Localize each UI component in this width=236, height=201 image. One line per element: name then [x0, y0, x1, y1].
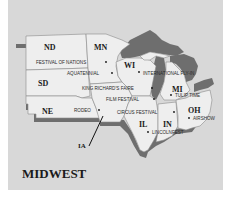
event-marker-airshow [188, 117, 190, 119]
midwest-map: ND MN SD WI NE MI OH IL IN IA FESTIVAL O… [0, 0, 236, 201]
event-marker-circus-festival [173, 111, 175, 113]
event-label-lincolnfest: LINCOLNFEST [152, 130, 184, 135]
event-marker-film-festival [153, 98, 155, 100]
state-label-nd: ND [44, 43, 56, 52]
event-marker-king-richards-faire [151, 87, 153, 89]
state-label-oh: OH [188, 106, 201, 115]
state-label-il: IL [139, 120, 147, 129]
event-marker-aquatennial [111, 72, 113, 74]
event-label-circus-festival: CIRCUS FESTIVAL [117, 110, 158, 115]
state-label-ia: IA [78, 142, 86, 150]
event-label-film-festival: FILM FESTIVAL [106, 97, 140, 102]
event-marker-tulip-time [170, 94, 172, 96]
event-label-airshow: AIRSHOW [193, 116, 216, 121]
event-label-tulip-time: TULIP TIME [175, 93, 200, 98]
event-marker-rodeo [98, 109, 100, 111]
state-label-wi: WI [124, 61, 135, 70]
state-label-mn: MN [94, 43, 108, 52]
state-label-ne: NE [42, 107, 53, 116]
event-label-aquatennial: AQUATENNIAL [67, 71, 100, 76]
state-label-in: IN [163, 120, 172, 129]
state-label-sd: SD [38, 79, 48, 88]
event-label-king-richards-faire: KING RICHARD'S FAIRE [82, 86, 134, 91]
map-title: MIDWEST [22, 166, 87, 181]
state-ne [26, 96, 100, 118]
event-label-rodeo: RODEO [74, 108, 91, 113]
event-label-international-fly-in: INTERNATIONAL FLY-IN [143, 71, 194, 76]
event-marker-international-fly-in [138, 71, 140, 73]
event-marker-festival-of-nations [105, 61, 107, 63]
event-label-festival-of-nations: FESTIVAL OF NATIONS [36, 60, 86, 65]
event-marker-lincolnfest [147, 131, 149, 133]
